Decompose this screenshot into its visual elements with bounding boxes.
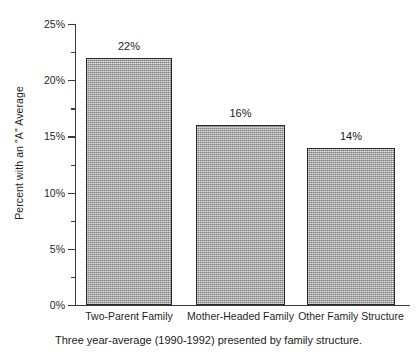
y-tick-minor	[71, 52, 75, 53]
x-axis-category-label: Other Family Structure	[298, 311, 404, 322]
bar	[307, 148, 395, 305]
y-tick-label: 5%	[50, 244, 65, 255]
y-tick-major	[68, 24, 75, 25]
y-tick-minor	[71, 277, 75, 278]
plot-area: 0%5%10%15%20%25% 22%16%14% Two-Parent Fa…	[75, 24, 410, 305]
y-tick-label: 25%	[44, 19, 65, 30]
y-tick-label: 20%	[44, 75, 65, 86]
chart-figure: Percent with an "A" Average 0%5%10%15%20…	[0, 0, 417, 364]
y-tick-major	[68, 136, 75, 137]
y-tick-major	[68, 249, 75, 250]
figure-caption: Three year-average (1990-1992) presented…	[0, 334, 417, 347]
y-tick-major	[68, 305, 75, 306]
bar	[86, 58, 172, 305]
y-tick-label: 15%	[44, 131, 65, 142]
y-axis-title-text: Percent with an "A" Average	[13, 86, 25, 220]
y-tick-minor	[71, 108, 75, 109]
y-tick-minor	[71, 221, 75, 222]
y-tick-label: 10%	[44, 187, 65, 198]
bar	[196, 125, 285, 305]
x-axis-line	[75, 305, 410, 306]
y-axis-line	[75, 24, 76, 305]
x-axis-category-label: Mother-Headed Family	[187, 311, 294, 322]
y-axis-title: Percent with an "A" Average	[8, 0, 30, 305]
bar-value-label: 16%	[229, 108, 251, 119]
bar-value-label: 22%	[118, 41, 140, 52]
y-tick-major	[68, 193, 75, 194]
y-tick-minor	[71, 165, 75, 166]
bar-value-label: 14%	[340, 131, 362, 142]
y-tick-label: 0%	[50, 300, 65, 311]
x-axis-category-label: Two-Parent Family	[85, 311, 173, 322]
y-tick-major	[68, 80, 75, 81]
